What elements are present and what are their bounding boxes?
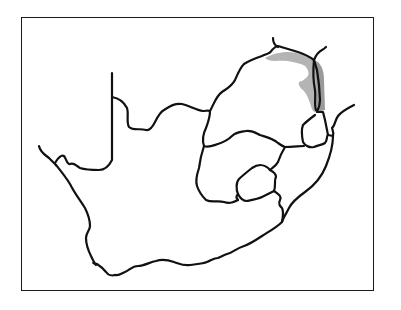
south-africa-map	[0, 0, 401, 310]
limpopo-tributary	[273, 38, 278, 47]
west-coast	[56, 165, 115, 275]
province-border-fs-east	[270, 147, 285, 170]
distribution-range	[265, 52, 321, 112]
province-border-fs-west	[196, 146, 238, 203]
east-coast	[282, 136, 333, 222]
mozambique-north-branch	[314, 47, 326, 60]
province-border-fs-north	[204, 131, 304, 147]
south-coast	[115, 222, 282, 275]
west-coast-north	[39, 146, 56, 165]
botswana-border	[112, 97, 210, 130]
lesotho-border	[237, 165, 276, 201]
province-border-nw-gp	[203, 111, 210, 146]
province-border-ec-kzn	[237, 191, 284, 222]
maputo-coast	[328, 105, 354, 136]
namibia-border	[55, 73, 112, 170]
